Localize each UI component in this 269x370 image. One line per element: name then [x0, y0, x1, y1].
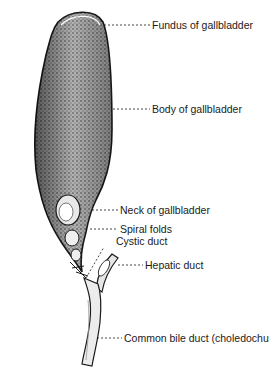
- common-bile-duct-shape: [82, 278, 101, 366]
- label-fundus: Fundus of gallbladder: [152, 20, 253, 31]
- label-hepatic-duct: Hepatic duct: [145, 260, 203, 271]
- label-cystic-duct: Cystic duct: [116, 236, 167, 247]
- gallbladder-illustration: [0, 0, 269, 370]
- label-common-bile-duct: Common bile duct (choledochus): [124, 333, 269, 344]
- label-neck: Neck of gallbladder: [120, 205, 210, 216]
- label-body: Body of gallbladder: [152, 104, 242, 115]
- label-spiral-folds: Spiral folds: [120, 224, 172, 235]
- gallbladder-body-shape: [35, 12, 112, 278]
